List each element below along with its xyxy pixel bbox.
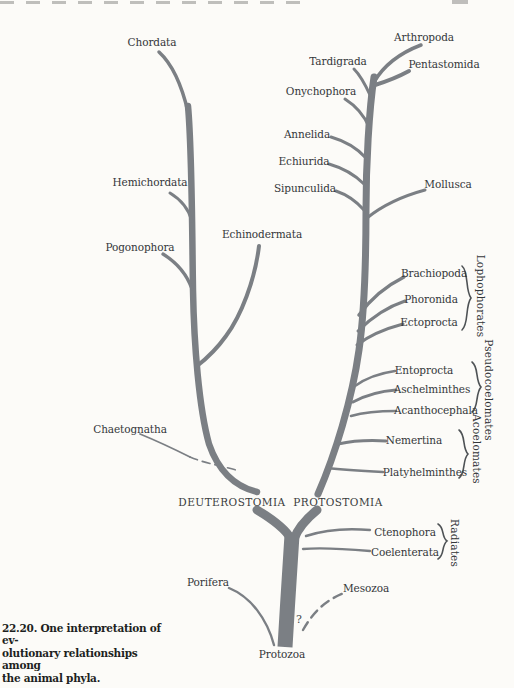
taxon-label-tardigrada: Tardigrada — [309, 56, 367, 67]
taxon-label-phoronida: Phoronida — [404, 294, 458, 305]
taxon-label-echiurida: Echiurida — [279, 156, 330, 167]
branch-chordata — [159, 52, 188, 112]
taxon-label-chordata: Chordata — [128, 37, 177, 48]
taxon-label-mesozoa: Mesozoa — [343, 583, 389, 594]
branch-mesozoa-dashed — [303, 593, 344, 630]
branch-mollusca — [367, 190, 425, 218]
taxon-label-pentastomida: Pentastomida — [408, 59, 479, 70]
figure-caption: 22.20. One interpretation of ev- olution… — [2, 622, 178, 684]
taxon-label-sipunculida: Sipunculida — [274, 183, 336, 194]
phylogeny-tree-svg — [0, 0, 514, 688]
taxon-label-porifera: Porifera — [187, 577, 229, 588]
taxon-label-annelida: Annelida — [284, 129, 330, 140]
taxon-label-aschelminthes: Aschelminthes — [394, 384, 471, 395]
branch-ctenophora — [306, 529, 370, 536]
taxon-label-mollusca: Mollusca — [424, 179, 471, 190]
taxon-label-brachiopoda: Brachiopoda — [401, 268, 467, 279]
group-label-lophophorates: Lophophorates — [476, 255, 487, 338]
group-label-pseudocoelomates: Pseudocoelomates — [484, 339, 495, 441]
branch-porifera — [229, 588, 274, 645]
branch-coelenterata — [303, 548, 370, 551]
taxon-label-platyhelminthes: Platyhelminthes — [383, 467, 467, 478]
caption-line-2: olutionary relationships among — [2, 647, 178, 672]
taxon-label-entoprocta: Entoprocta — [395, 365, 453, 376]
branch-acanthocephala — [351, 411, 396, 416]
branch-tardigrada — [354, 69, 370, 95]
taxon-label-nemertina: Nemertina — [386, 435, 442, 446]
taxon-label-protozoa: Protozoa — [259, 649, 305, 660]
group-label-radiates: Radiates — [450, 519, 461, 567]
trunk-root — [285, 535, 292, 647]
clade-label-deuterostomia: DEUTEROSTOMIA — [178, 497, 285, 508]
taxon-label-acanthocephala: Acanthocephala — [394, 405, 478, 416]
branch-onychophora — [345, 99, 369, 127]
brace-radiates — [438, 524, 447, 559]
branch-sipunculida — [336, 191, 364, 210]
taxon-label-arthropoda: Arthropoda — [394, 32, 454, 43]
taxon-label-echinodermata: Echinodermata — [222, 229, 302, 240]
uncertainty-question-mark: ? — [296, 614, 302, 625]
branch-entoprocta — [355, 371, 395, 386]
branch-chaetognatha-solid — [140, 434, 190, 457]
taxon-label-coelenterata: Coelenterata — [371, 547, 439, 558]
branch-aschelminthes — [353, 390, 396, 402]
branch-pogonophora — [163, 254, 192, 289]
branch-annelida — [331, 137, 366, 158]
branch-echinodermata — [197, 246, 259, 366]
group-label-acoelomates: Acoelomates — [472, 414, 483, 484]
figure-22-20: Chordata Hemichordata Pogonophora Echino… — [0, 0, 514, 688]
taxon-label-ctenophora: Ctenophora — [374, 527, 436, 538]
branch-nemertina — [338, 441, 386, 444]
branch-platyhelminthes — [327, 468, 383, 472]
taxon-label-onychophora: Onychophora — [286, 86, 356, 97]
taxon-label-pogonophora: Pogonophora — [105, 242, 174, 253]
caption-line-1: 22.20. One interpretation of ev- — [2, 622, 178, 647]
clade-label-protostomia: PROTOSTOMIA — [293, 497, 382, 508]
caption-line-3: the animal phyla. — [2, 672, 178, 684]
taxon-label-hemichordata: Hemichordata — [113, 177, 188, 188]
taxon-label-chaetognatha: Chaetognatha — [93, 424, 167, 435]
taxon-label-ectoprocta: Ectoprocta — [400, 317, 458, 328]
